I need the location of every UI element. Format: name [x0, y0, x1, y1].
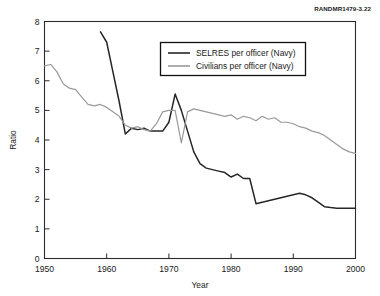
y-tick-label: 5: [35, 105, 40, 115]
y-axis-title: Ratio: [8, 130, 18, 150]
x-tick-label: 1960: [97, 264, 116, 274]
x-tick-label: 1980: [222, 264, 241, 274]
chart-legend: SELRES per officer (Navy) Civilians per …: [161, 43, 306, 76]
x-tick-label: 1990: [284, 264, 303, 274]
x-tick-label: 1970: [159, 264, 178, 274]
y-tick-label: 0: [35, 254, 40, 264]
y-axis-tick-labels: 012345678: [35, 17, 40, 264]
ratio-line-chart: 012345678 195019601970198019902000 Ratio…: [0, 0, 380, 296]
figure-page: RANDMR1479-3.22 012345678 19501960197019…: [0, 0, 380, 296]
x-tick-label: 1950: [35, 264, 54, 274]
y-axis-ticks: [45, 22, 50, 259]
legend-label-civilians: Civilians per officer (Navy): [196, 61, 294, 71]
x-axis-tick-labels: 195019601970198019902000: [35, 264, 365, 274]
y-tick-label: 3: [35, 165, 40, 175]
x-axis-title: Year: [192, 280, 209, 290]
series-line-1: [45, 64, 356, 153]
x-axis-ticks: [45, 254, 356, 259]
x-tick-label: 2000: [346, 264, 365, 274]
legend-label-selres: SELRES per officer (Navy): [196, 48, 296, 58]
y-tick-label: 6: [35, 76, 40, 86]
y-tick-label: 2: [35, 194, 40, 204]
y-tick-label: 8: [35, 17, 40, 27]
y-tick-label: 1: [35, 224, 40, 234]
y-tick-label: 4: [35, 135, 40, 145]
y-tick-label: 7: [35, 46, 40, 56]
